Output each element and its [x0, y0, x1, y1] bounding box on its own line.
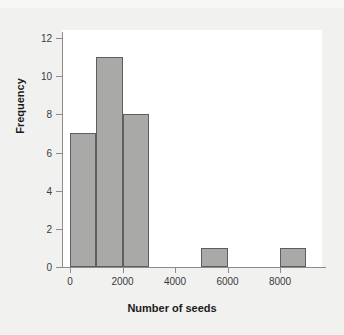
y-axis-tick [56, 114, 62, 115]
y-axis-tick [56, 76, 62, 77]
x-axis-tick [175, 267, 176, 273]
histogram-bar [70, 133, 96, 267]
y-axis-tick [56, 38, 62, 39]
y-axis-tick-label: 4 [12, 185, 52, 196]
histogram-bar [96, 57, 122, 267]
x-axis-tick [280, 267, 281, 273]
x-axis-tick [228, 267, 229, 273]
y-axis-line [62, 32, 63, 268]
histogram-figure: 024681012 02000400060008000 Frequency Nu… [0, 0, 344, 335]
y-axis-tick-label: 0 [12, 262, 52, 273]
x-axis-tick-label: 4000 [145, 276, 205, 287]
x-axis-tick-label: 8000 [250, 276, 310, 287]
histogram-bar [201, 248, 227, 267]
x-axis-tick [70, 267, 71, 273]
x-axis-tick-label: 0 [40, 276, 100, 287]
y-axis-tick [56, 191, 62, 192]
y-axis-tick-label: 12 [12, 33, 52, 44]
x-axis-tick-label: 2000 [93, 276, 153, 287]
y-axis-tick [56, 153, 62, 154]
y-axis-title: Frequency [14, 56, 26, 156]
y-axis-tick [56, 267, 62, 268]
histogram-bar [123, 114, 149, 267]
x-axis-title: Number of seeds [0, 302, 344, 314]
histogram-bar [280, 248, 306, 267]
y-axis-tick-label: 2 [12, 223, 52, 234]
y-axis-tick [56, 229, 62, 230]
x-axis-tick [123, 267, 124, 273]
x-axis-tick-label: 6000 [198, 276, 258, 287]
x-axis-line [62, 267, 326, 268]
